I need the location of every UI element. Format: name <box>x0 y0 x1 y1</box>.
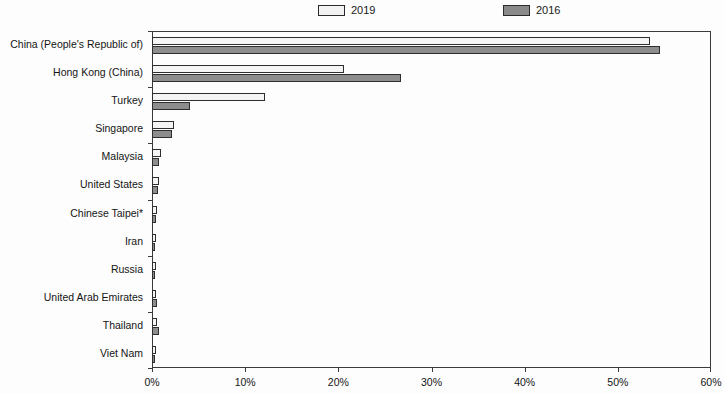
bar-group <box>152 312 711 340</box>
bar-2016 <box>152 130 172 138</box>
bar-2016 <box>152 102 190 110</box>
bar-group <box>152 200 711 228</box>
bar-2019 <box>152 121 174 129</box>
x-axis-tick <box>338 368 339 372</box>
bar-group <box>152 115 711 143</box>
y-axis-label: Viet Nam <box>0 348 148 359</box>
legend-label-2016: 2016 <box>536 5 560 16</box>
bar-2019 <box>152 262 156 270</box>
bar-group <box>152 171 711 199</box>
x-axis-label: 50% <box>607 376 628 388</box>
x-axis-label: 40% <box>514 376 535 388</box>
legend-item-2019: 2019 <box>318 5 375 16</box>
y-axis-tick <box>148 31 152 32</box>
x-axis-tick <box>618 368 619 372</box>
legend-swatch-2019-icon <box>318 5 345 16</box>
x-axis-label: 20% <box>328 376 349 388</box>
x-axis-tick <box>525 368 526 372</box>
y-axis-label: Singapore <box>0 123 148 134</box>
bar-group <box>152 284 711 312</box>
y-axis-label: Russia <box>0 264 148 275</box>
bar-2016 <box>152 46 660 54</box>
y-axis-label: Thailand <box>0 320 148 331</box>
y-axis-label: Malaysia <box>0 151 148 162</box>
bar-2016 <box>152 186 158 194</box>
legend-swatch-2016-icon <box>503 5 530 16</box>
x-axis-label: 10% <box>235 376 256 388</box>
x-axis-label: 30% <box>421 376 442 388</box>
bar-2016 <box>152 215 156 223</box>
bar-2019 <box>152 37 650 45</box>
bar-2019 <box>152 177 159 185</box>
bar-2019 <box>152 290 156 298</box>
x-axis-label: 0% <box>144 376 159 388</box>
bar-chart: 2019 2016 China (People's Republic of)Ho… <box>0 0 724 394</box>
bar-2016 <box>152 271 155 279</box>
bar-2016 <box>152 74 401 82</box>
legend-item-2016: 2016 <box>503 5 560 16</box>
bar-group <box>152 228 711 256</box>
x-axis: 0%10%20%30%40%50%60% <box>152 368 711 394</box>
y-axis-label: United Arab Emirates <box>0 292 148 303</box>
bar-group <box>152 31 711 59</box>
bar-2016 <box>152 243 155 251</box>
bar-series-container <box>152 31 711 368</box>
y-axis-category-labels: China (People's Republic of)Hong Kong (C… <box>0 31 148 368</box>
bar-group <box>152 340 711 368</box>
bar-group <box>152 87 711 115</box>
bar-2019 <box>152 318 157 326</box>
bar-2019 <box>152 234 156 242</box>
bar-group <box>152 143 711 171</box>
x-axis-tick <box>245 368 246 372</box>
y-axis-label: Turkey <box>0 95 148 106</box>
bar-2016 <box>152 327 159 335</box>
x-axis-tick <box>432 368 433 372</box>
x-axis-tick <box>710 368 711 372</box>
chart-legend: 2019 2016 <box>0 4 724 26</box>
x-axis-label: 60% <box>700 376 721 388</box>
bar-2016 <box>152 355 155 363</box>
bar-2019 <box>152 346 156 354</box>
bar-group <box>152 256 711 284</box>
y-axis-label: United States <box>0 179 148 190</box>
y-axis-label: Chinese Taipei* <box>0 208 148 219</box>
bar-2016 <box>152 158 159 166</box>
y-axis-label: Iran <box>0 236 148 247</box>
bar-2016 <box>152 299 157 307</box>
legend-label-2019: 2019 <box>351 5 375 16</box>
x-axis-tick <box>152 368 153 372</box>
bar-2019 <box>152 93 265 101</box>
y-axis-label: Hong Kong (China) <box>0 67 148 78</box>
y-axis-label: China (People's Republic of) <box>0 39 148 50</box>
bar-group <box>152 59 711 87</box>
bar-2019 <box>152 65 344 73</box>
bar-2019 <box>152 149 161 157</box>
bar-2019 <box>152 206 157 214</box>
